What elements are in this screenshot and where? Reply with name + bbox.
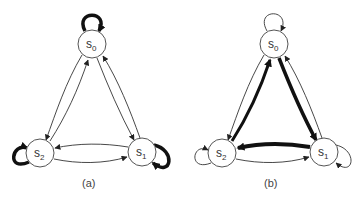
panel-b: s0 s1 s2 (b) [195, 14, 351, 189]
edge-s0-s0 [83, 15, 101, 31]
edge-s2-s0 [50, 60, 88, 141]
edge-s0-s2 [228, 55, 264, 140]
state-s1: s1 [310, 138, 338, 166]
edge-s1-s2 [55, 144, 128, 148]
edge-s2-s1 [236, 157, 309, 163]
state-s0: s0 [260, 30, 288, 58]
edge-s2-s0 [232, 60, 270, 141]
markov-state-diagrams: s0 s1 s2 (a) s0 s1 [0, 0, 364, 199]
edge-s0-s1 [97, 58, 134, 140]
state-s2: s2 [208, 139, 236, 167]
edge-s1-s0 [285, 56, 322, 138]
edge-s1-s0 [103, 56, 140, 138]
edge-s0-s2 [46, 55, 82, 140]
state-s0: s0 [78, 30, 106, 58]
edge-s0-s0 [264, 14, 283, 31]
panel-a: s0 s1 s2 (a) [14, 15, 169, 189]
caption-a: (a) [82, 177, 95, 189]
edge-s2-s1 [54, 157, 127, 163]
edge-s1-s2 [238, 144, 310, 148]
edge-s0-s1 [279, 58, 316, 140]
state-s1: s1 [128, 138, 156, 166]
edge-s1-s1 [336, 145, 351, 167]
state-s2: s2 [26, 139, 54, 167]
caption-b: (b) [264, 177, 277, 189]
